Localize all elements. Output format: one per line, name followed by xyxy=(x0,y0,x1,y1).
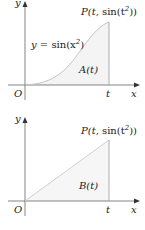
point-label-close: )) xyxy=(129,6,137,17)
bottom-t-label: t xyxy=(106,205,110,215)
area-b-label: B(t) xyxy=(79,181,98,191)
point-label-close: )) xyxy=(129,125,137,136)
top-t-label: t xyxy=(106,89,110,99)
bottom-x-axis-arrow-icon xyxy=(134,199,140,204)
curve-label-close: ) xyxy=(80,39,84,50)
bottom-x-axis-label: x xyxy=(131,205,137,215)
bottom-y-axis-arrow-icon xyxy=(23,117,28,123)
top-y-axis-label: y xyxy=(15,0,21,8)
area-a-label: A(t) xyxy=(79,65,98,75)
point-label-fn: sin xyxy=(102,125,117,136)
top-point-p-label: P(t, sin(t2)) xyxy=(81,7,137,17)
point-label-fn: sin xyxy=(102,6,117,17)
curve-label-prefix: y = xyxy=(31,39,51,50)
point-label-open: (t xyxy=(117,125,125,136)
curve-equation-label: y = sin(x2) xyxy=(31,40,84,50)
point-label-prefix: P(t, xyxy=(81,6,102,17)
top-x-axis-arrow-icon xyxy=(134,83,140,88)
bottom-point-p-label: P(t, sin(t2)) xyxy=(81,126,137,136)
top-x-axis-label: x xyxy=(131,89,137,99)
top-y-axis-arrow-icon xyxy=(23,1,28,7)
point-label-open: (t xyxy=(117,6,125,17)
bottom-y-axis-label: y xyxy=(15,114,21,124)
diagram-canvas xyxy=(0,0,145,230)
curve-label-open: (x xyxy=(66,39,76,50)
top-origin-label: O xyxy=(14,89,22,99)
point-label-prefix: P(t, xyxy=(81,125,102,136)
curve-label-fn: sin xyxy=(51,39,66,50)
bottom-origin-label: O xyxy=(14,205,22,215)
